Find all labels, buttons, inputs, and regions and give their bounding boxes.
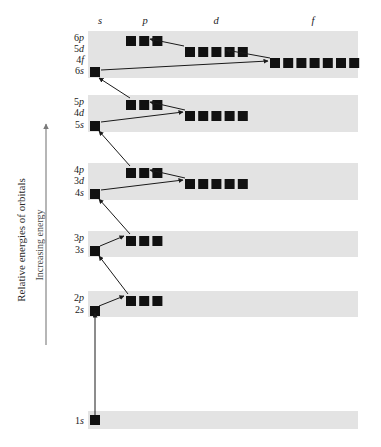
orbital-box xyxy=(90,246,100,256)
level-label-5s: 5s xyxy=(75,119,84,130)
level-label-4p: 4p xyxy=(74,164,84,175)
orbital-box xyxy=(349,58,359,68)
orbital-box xyxy=(270,58,280,68)
orbital-box xyxy=(90,415,100,425)
orbital-boxes-5s xyxy=(90,121,100,131)
orbital-boxes-3s xyxy=(90,246,100,256)
axis-direction-label: Increasing energy xyxy=(34,209,45,280)
orbital-box xyxy=(126,236,136,246)
band-n4: 4p3d4s xyxy=(74,163,358,200)
orbital-box xyxy=(211,179,221,189)
orbital-box xyxy=(238,111,248,121)
axis-title: Relative energies of orbitals xyxy=(15,178,27,302)
orbital-boxes-4d xyxy=(185,111,248,121)
level-label-3p: 3p xyxy=(74,232,84,243)
orbital-boxes-6p xyxy=(126,36,162,46)
orbital-box xyxy=(139,36,149,46)
orbital-box xyxy=(126,100,136,110)
orbital-box xyxy=(185,47,195,57)
orbital-box xyxy=(225,47,235,57)
orbital-box xyxy=(126,36,136,46)
column-header-p: p xyxy=(141,15,147,26)
orbital-energy-diagram: Relative energies of orbitals Increasing… xyxy=(0,0,381,447)
orbital-box xyxy=(185,179,195,189)
orbital-box xyxy=(152,236,162,246)
band-n5: 5p4d5s xyxy=(74,95,358,132)
level-label-6p: 6p xyxy=(74,32,84,43)
orbital-box xyxy=(336,58,346,68)
orbital-box xyxy=(152,296,162,306)
orbital-box xyxy=(90,67,100,77)
orbital-box xyxy=(225,111,235,121)
orbital-box xyxy=(323,58,333,68)
band-n2: 2p2s xyxy=(74,291,358,317)
orbital-box xyxy=(126,168,136,178)
level-label-2p: 2p xyxy=(74,292,84,303)
band-n6: 6p5d4f6s xyxy=(74,31,359,78)
level-label-3d: 3d xyxy=(74,175,85,186)
level-label-2s: 2s xyxy=(75,304,84,315)
column-header-s: s xyxy=(98,15,102,26)
orbital-box xyxy=(126,296,136,306)
level-label-6s: 6s xyxy=(75,65,84,76)
orbital-box xyxy=(310,58,320,68)
orbital-boxes-5p xyxy=(126,100,162,110)
level-label-4s: 4s xyxy=(75,187,84,198)
orbital-boxes-6s xyxy=(90,67,100,77)
band-strip xyxy=(88,411,358,429)
orbital-box xyxy=(185,111,195,121)
orbital-boxes-4p xyxy=(126,168,162,178)
level-label-4d: 4d xyxy=(74,107,85,118)
orbital-boxes-1s xyxy=(90,415,100,425)
level-label-1s: 1s xyxy=(75,415,84,426)
orbital-box xyxy=(211,47,221,57)
level-label-5d: 5d xyxy=(74,43,85,54)
orbital-box xyxy=(139,296,149,306)
orbital-box xyxy=(198,111,208,121)
column-header-d: d xyxy=(213,15,219,26)
orbital-box xyxy=(139,100,149,110)
orbital-box xyxy=(238,179,248,189)
level-label-3s: 3s xyxy=(75,244,84,255)
orbital-box xyxy=(211,111,221,121)
level-label-4f: 4f xyxy=(76,54,85,65)
orbital-boxes-4f xyxy=(270,58,359,68)
orbital-box xyxy=(225,179,235,189)
orbital-box xyxy=(139,168,149,178)
level-label-5p: 5p xyxy=(74,96,84,107)
orbital-boxes-4s xyxy=(90,189,100,199)
orbital-box xyxy=(296,58,306,68)
orbital-box xyxy=(90,189,100,199)
orbital-box xyxy=(198,179,208,189)
band-n3: 3p3s xyxy=(74,231,358,257)
orbital-boxes-3d xyxy=(185,179,248,189)
orbital-box xyxy=(90,121,100,131)
orbital-boxes-3p xyxy=(126,236,162,246)
orbital-box xyxy=(283,58,293,68)
orbital-boxes-2p xyxy=(126,296,162,306)
orbital-box xyxy=(198,47,208,57)
band-n1: 1s xyxy=(75,411,358,429)
orbital-box xyxy=(139,236,149,246)
